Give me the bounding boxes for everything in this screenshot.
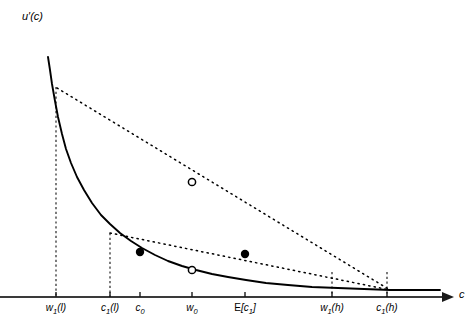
- x-tick-label-1: c1(l): [101, 302, 119, 316]
- plot-canvas: [0, 0, 475, 331]
- expected-marginal-utility-high: [188, 178, 195, 185]
- x-axis-label: c: [459, 288, 465, 300]
- x-tick-label-0: w1(l): [46, 302, 66, 316]
- y-axis-label: u′(c): [22, 10, 43, 22]
- marginal-utility-at-expected-c1: [241, 250, 249, 258]
- marginal-utility-at-w0: [188, 266, 195, 273]
- x-tick-label-6: c1(h): [376, 302, 397, 316]
- data-point-markers: [136, 178, 249, 273]
- marginal-utility-at-c0: [136, 248, 144, 256]
- figure-container: u′(c) c w1(l)c1(l)c0w0E[c1]w1(h)c1(h): [0, 0, 475, 331]
- x-tick-label-4: E[c1]: [234, 302, 255, 316]
- x-tick-label-5: w1(h): [320, 302, 344, 316]
- vertical-dashed-lines: [56, 87, 387, 297]
- upper-chord-high-risk: [57, 88, 390, 290]
- x-tick-label-3: w0: [186, 302, 197, 316]
- x-tick-label-2: c0: [135, 302, 144, 316]
